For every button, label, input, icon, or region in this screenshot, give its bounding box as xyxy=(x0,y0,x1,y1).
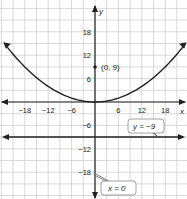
directrix-label: y = −9 xyxy=(132,122,156,131)
focus-point xyxy=(93,65,97,69)
grid xyxy=(0,0,187,199)
y-tick-label: 18 xyxy=(83,28,91,37)
x-axis-label: x xyxy=(179,107,185,116)
y-tick-label: −18 xyxy=(78,168,91,177)
x-tick-label: −18 xyxy=(18,106,31,115)
y-tick-label: 6 xyxy=(87,75,91,84)
focus-label: (0, 9) xyxy=(101,63,120,72)
directrix-callout: y = −9 xyxy=(128,119,164,136)
x-tick-label: 12 xyxy=(138,106,146,115)
x-tick-label: 18 xyxy=(161,106,169,115)
x-tick-label: −6 xyxy=(67,106,76,115)
axis-of-symmetry-label: x = 0 xyxy=(107,184,126,193)
y-tick-label: −6 xyxy=(82,121,91,130)
graph: −18−12−66121818126−6−12−18 y x (0, 9) y … xyxy=(0,0,187,199)
y-tick-label: −12 xyxy=(78,145,91,154)
x-tick-label: 6 xyxy=(116,106,120,115)
x-tick-label: −12 xyxy=(42,106,55,115)
directrix-line xyxy=(2,134,185,140)
y-tick-label: 12 xyxy=(83,51,91,60)
